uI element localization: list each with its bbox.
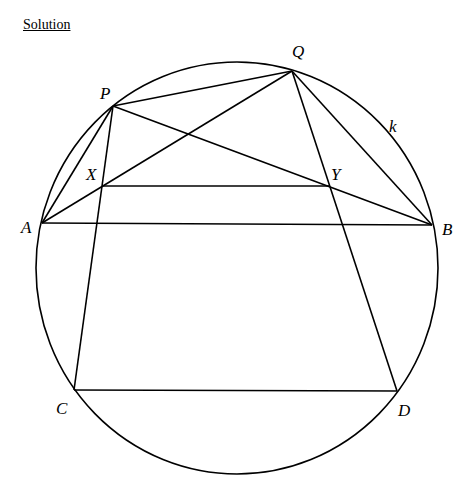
segment-PB xyxy=(113,106,432,225)
point-label-D: D xyxy=(397,401,411,420)
segment-QB xyxy=(292,71,432,225)
point-label-X: X xyxy=(85,165,97,184)
segment-PA xyxy=(42,106,113,223)
segment-CD xyxy=(74,390,397,391)
point-label-P: P xyxy=(99,84,110,103)
segment-AB xyxy=(42,223,432,225)
point-label-C: C xyxy=(56,399,68,418)
segment-QA xyxy=(42,71,292,223)
point-label-Y: Y xyxy=(331,165,342,184)
geometry-diagram: PQXYABCDk xyxy=(0,0,474,480)
segments xyxy=(42,71,432,391)
point-label-A: A xyxy=(20,218,32,237)
point-label-B: B xyxy=(442,220,453,239)
point-label-Q: Q xyxy=(292,42,304,61)
segment-PC xyxy=(74,106,113,390)
circle-label-k: k xyxy=(389,117,397,136)
segment-QD xyxy=(292,71,397,391)
circle-k xyxy=(36,62,438,474)
